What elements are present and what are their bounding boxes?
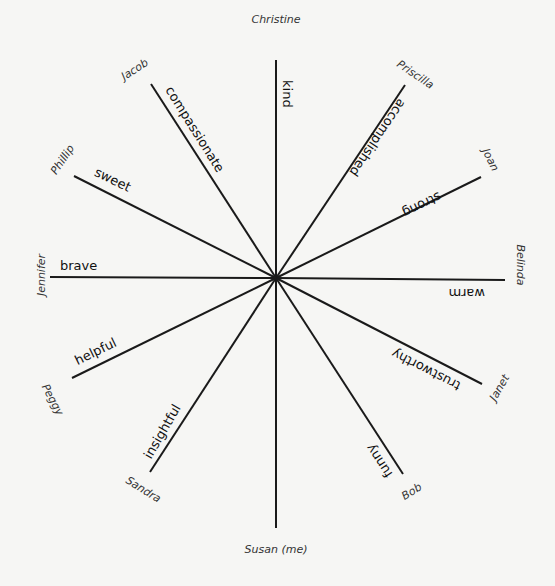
person-name-label: Peggy: [39, 382, 67, 418]
person-name-label: Susan (me): [245, 543, 308, 556]
person-name-label: Sandra: [123, 474, 163, 506]
spoke-line: [50, 277, 276, 278]
spoke-line: [150, 278, 276, 472]
person-name-label: Janet: [486, 372, 513, 405]
trait-label: funny: [363, 441, 396, 480]
spoke-line: [276, 278, 403, 474]
person-name-label: Priscilla: [394, 57, 436, 91]
name-wheel-diagram: ChristinekindPriscillaaccomplishedJoanst…: [0, 0, 555, 586]
person-name-label: Bob: [399, 480, 424, 502]
spoke-priscilla: Priscillaaccomplished: [276, 57, 436, 278]
spoke-peggy: Peggyhelpful: [39, 278, 276, 418]
spoke-line: [72, 278, 276, 378]
trait-label: brave: [60, 258, 97, 273]
person-name-label: Belinda: [514, 244, 527, 285]
spoke-jacob: Jacobcompassionate: [117, 56, 276, 278]
spoke-line: [74, 176, 276, 278]
trait-label: strong: [400, 189, 444, 221]
spoke-line: [276, 177, 481, 278]
spoke-christine: Christinekind: [251, 13, 300, 278]
person-name-label: Phillip: [48, 142, 77, 176]
spoke-sandra: Sandrainsightful: [123, 278, 276, 506]
spoke-line: [151, 84, 276, 278]
spoke-joan: Joanstrong: [276, 144, 501, 278]
trait-label: helpful: [72, 335, 119, 368]
trait-label: accomplished: [346, 96, 409, 179]
trait-label: warm: [449, 286, 485, 301]
spoke-bob: Bobfunny: [276, 278, 424, 503]
trait-label: compassionate: [162, 83, 227, 174]
spoke-belinda: Belindawarm: [276, 244, 527, 300]
spoke-line: [276, 278, 505, 280]
person-name-label: Christine: [251, 13, 300, 26]
person-name-label: Jacob: [117, 56, 151, 84]
trait-label: sweet: [92, 164, 133, 194]
trait-label: kind: [280, 80, 295, 108]
spoke-susan-me: Susan (me): [245, 278, 308, 556]
trait-label: trustworthy: [389, 346, 463, 394]
person-name-label: Joan: [479, 144, 502, 173]
person-name-label: Jennifer: [35, 252, 48, 298]
